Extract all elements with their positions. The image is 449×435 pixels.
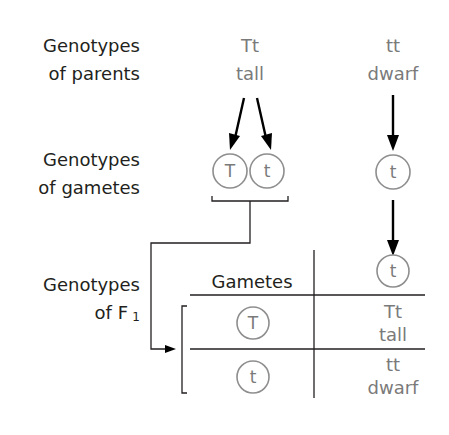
svg-text:tt: tt bbox=[386, 354, 400, 375]
punnett-table: Gametes t T Tt tall t tt dwarf bbox=[182, 250, 425, 398]
label-f1: Genotypes of F 1 bbox=[43, 274, 140, 324]
svg-text:dwarf: dwarf bbox=[368, 63, 420, 84]
svg-text:Genotypes: Genotypes bbox=[43, 274, 140, 295]
parent2-genotype: tt dwarf bbox=[368, 35, 420, 84]
parent1-genotype: Tt tall bbox=[236, 35, 264, 84]
svg-text:Tt: Tt bbox=[383, 301, 402, 322]
svg-text:t: t bbox=[250, 367, 257, 387]
gamete-circle-t: t bbox=[376, 155, 410, 189]
arrow-icon bbox=[387, 200, 399, 256]
arrow-icon bbox=[387, 95, 399, 151]
svg-text:dwarf: dwarf bbox=[368, 377, 420, 398]
table-row: t tt dwarf bbox=[237, 354, 419, 398]
svg-text:Genotypes: Genotypes bbox=[43, 149, 140, 170]
gamete-circle-t: t bbox=[250, 154, 284, 188]
gamete-circle-T: T bbox=[213, 154, 247, 188]
svg-text:1: 1 bbox=[132, 310, 140, 324]
svg-text:of gametes: of gametes bbox=[38, 177, 140, 198]
svg-text:t: t bbox=[264, 161, 271, 181]
svg-text:Genotypes: Genotypes bbox=[43, 35, 140, 56]
svg-text:of F: of F bbox=[95, 302, 128, 323]
column-gamete-circle: t bbox=[377, 255, 409, 287]
svg-text:T: T bbox=[247, 313, 259, 333]
svg-text:Tt: Tt bbox=[240, 35, 259, 56]
table-header: Gametes bbox=[211, 271, 292, 292]
svg-text:T: T bbox=[224, 161, 236, 181]
svg-text:tall: tall bbox=[379, 324, 407, 345]
arrow-icon bbox=[229, 98, 244, 150]
svg-text:t: t bbox=[390, 261, 397, 281]
svg-text:tt: tt bbox=[386, 35, 400, 56]
label-gametes: Genotypes of gametes bbox=[38, 149, 140, 198]
svg-text:tall: tall bbox=[236, 63, 264, 84]
svg-text:of parents: of parents bbox=[49, 63, 140, 84]
arrow-icon bbox=[257, 98, 272, 150]
svg-text:t: t bbox=[390, 162, 397, 182]
table-row: T Tt tall bbox=[237, 301, 407, 345]
punnett-cross-diagram: Genotypes of parents Genotypes of gamete… bbox=[0, 0, 449, 435]
label-parents: Genotypes of parents bbox=[43, 35, 140, 84]
